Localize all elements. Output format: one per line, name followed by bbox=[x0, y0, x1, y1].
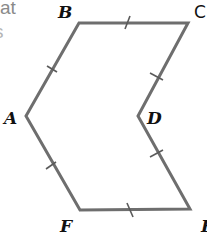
hexagon-diagram: B C A D F E bbox=[0, 0, 207, 237]
vertex-label-f: F bbox=[59, 216, 74, 236]
vertex-label-a: A bbox=[2, 108, 17, 128]
vertex-label-b: B bbox=[57, 2, 72, 22]
vertex-label-c: C bbox=[194, 2, 206, 22]
vertex-label-d: D bbox=[146, 108, 162, 128]
hexagon-outline bbox=[26, 23, 190, 210]
vertex-label-e: E bbox=[200, 216, 207, 236]
